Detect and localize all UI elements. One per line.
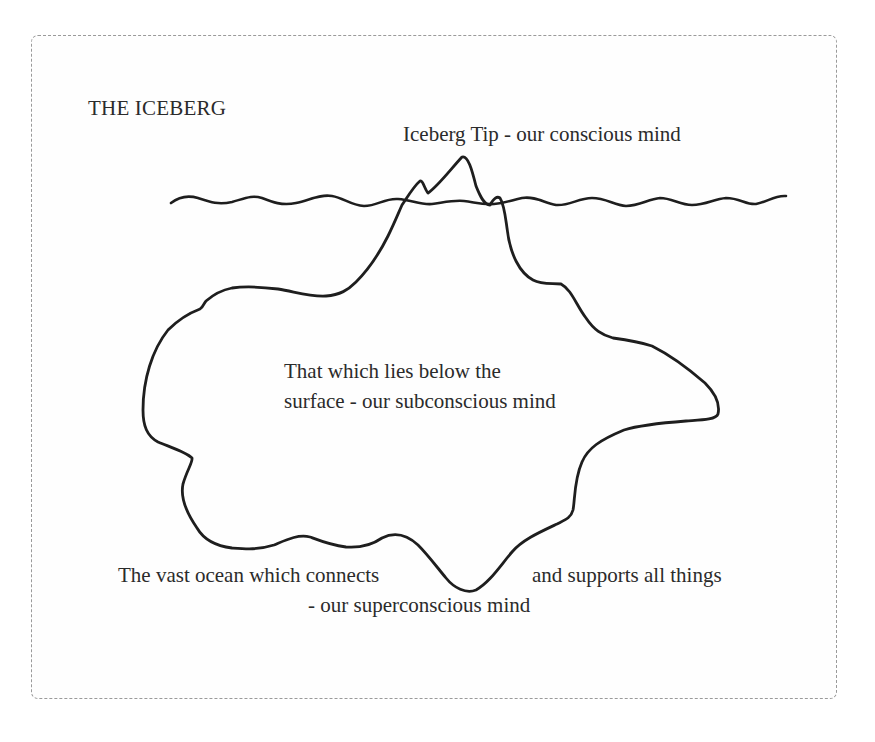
diagram-title: THE ICEBERG bbox=[88, 96, 226, 120]
subconscious-label-line2: surface - our subconscious mind bbox=[284, 386, 556, 416]
tip-label: Iceberg Tip - our conscious mind bbox=[403, 122, 681, 146]
subconscious-label-line1: That which lies below the bbox=[284, 356, 556, 386]
ocean-label-left: The vast ocean which connects bbox=[118, 563, 379, 587]
ocean-label-bottom: - our superconscious mind bbox=[308, 593, 530, 617]
waterline bbox=[171, 196, 786, 206]
ocean-label-right: and supports all things bbox=[532, 563, 722, 587]
subconscious-label: That which lies below the surface - our … bbox=[284, 356, 556, 416]
